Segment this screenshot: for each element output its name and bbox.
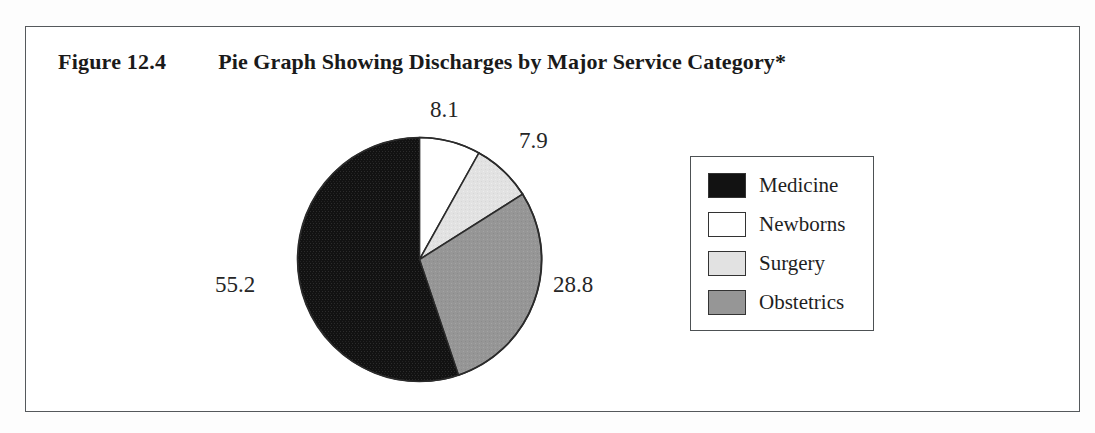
legend-label-obstetrics: Obstetrics xyxy=(759,290,844,315)
pie-value-medicine: 55.2 xyxy=(215,272,255,298)
legend-label-surgery: Surgery xyxy=(759,251,825,276)
legend-item-medicine: Medicine xyxy=(708,166,873,205)
pie-value-surgery: 7.9 xyxy=(519,128,548,154)
legend-swatch-obstetrics xyxy=(708,290,746,315)
legend-item-newborns: Newborns xyxy=(708,205,873,244)
legend-swatch-surgery xyxy=(708,251,746,276)
pie-value-obstetrics: 28.8 xyxy=(553,272,593,298)
figure-title: Pie Graph Showing Discharges by Major Se… xyxy=(218,49,786,75)
pie-chart-svg xyxy=(295,135,544,384)
legend-item-surgery: Surgery xyxy=(708,244,873,283)
legend-label-newborns: Newborns xyxy=(759,212,845,237)
figure-frame: Figure 12.4 Pie Graph Showing Discharges… xyxy=(25,26,1080,412)
pie-value-newborns: 8.1 xyxy=(430,97,459,123)
legend-item-obstetrics: Obstetrics xyxy=(708,283,873,322)
legend-label-medicine: Medicine xyxy=(759,173,838,198)
figure-number: Figure 12.4 xyxy=(58,49,166,75)
chart-legend: Medicine Newborns Surgery Obstetrics xyxy=(690,156,874,331)
legend-swatch-newborns xyxy=(708,212,746,237)
pie-chart xyxy=(295,135,544,384)
figure-heading: Figure 12.4 Pie Graph Showing Discharges… xyxy=(58,49,786,75)
legend-swatch-medicine xyxy=(708,173,746,198)
